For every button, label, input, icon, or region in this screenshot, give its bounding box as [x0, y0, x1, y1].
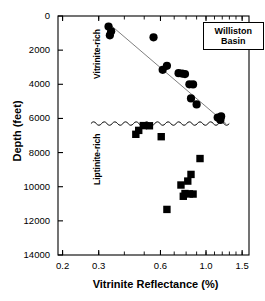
- liptinite-rich-zone: Liptinite-rich: [92, 134, 102, 185]
- x-tick-label: 0.6: [145, 260, 175, 271]
- data-point-square: [146, 122, 153, 129]
- y-tick-label: 14000: [0, 249, 50, 260]
- y-tick-label: 0: [0, 10, 50, 21]
- data-point-square: [158, 133, 165, 140]
- data-point-circle: [181, 70, 189, 78]
- y-tick-label: 6000: [0, 112, 50, 123]
- x-tick-label: 1.5: [227, 260, 257, 271]
- x-axis-title-text: Vitrinite Reflectance (%): [47, 278, 219, 290]
- legend-line-1: Williston: [208, 26, 259, 36]
- data-point-square: [189, 190, 196, 197]
- williston-basin-legend: Williston Basin: [203, 22, 264, 51]
- data-point-square: [163, 206, 170, 213]
- data-point-circle: [193, 100, 201, 108]
- data-point-circle: [163, 62, 171, 70]
- x-tick-label: 0.2: [48, 260, 78, 271]
- data-point-circle: [189, 80, 197, 88]
- y-tick-label: 2000: [0, 44, 50, 55]
- y-tick-label: 12000: [0, 215, 50, 226]
- data-point-square: [196, 155, 203, 162]
- data-point-square: [132, 131, 139, 138]
- y-tick-label: 10000: [0, 181, 50, 192]
- x-tick-label: 0.3: [84, 260, 114, 271]
- y-tick-label: 8000: [0, 147, 50, 158]
- plot-frame: [58, 16, 249, 255]
- data-point-circle: [216, 116, 224, 124]
- data-point-square: [180, 193, 187, 200]
- x-tick-label: 1.0: [191, 260, 221, 271]
- data-point-circle: [106, 31, 114, 39]
- vitrinite-rich-zone: Vitrinite-rich: [92, 29, 102, 79]
- data-point-circle: [149, 33, 157, 41]
- data-point-circle: [187, 94, 195, 102]
- data-point-square: [177, 181, 184, 188]
- data-point-square: [187, 171, 194, 178]
- data-point-square: [184, 177, 191, 184]
- y-axis-title: Depth (feet): [11, 86, 23, 176]
- plot-frame-rect: [58, 16, 249, 255]
- y-tick-label: 4000: [0, 78, 50, 89]
- x-axis-title: Vitrinite Reflectance (%): [0, 278, 265, 290]
- legend-line-2: Basin: [208, 36, 259, 46]
